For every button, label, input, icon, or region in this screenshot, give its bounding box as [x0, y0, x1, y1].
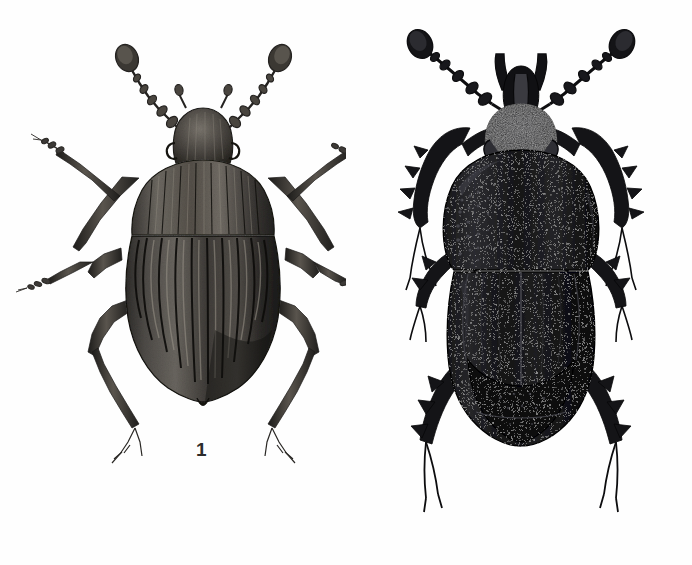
figure-1-svg: [0, 0, 346, 500]
figure-2-svg: [350, 0, 692, 565]
fig1-left-legs: [16, 134, 142, 463]
illustration-plate: 1: [0, 0, 692, 565]
fig1-elytra: [126, 236, 280, 406]
fig1-head: [167, 108, 239, 168]
fig2-elytra: [447, 272, 595, 446]
figure-2-beetle: 2: [350, 0, 692, 565]
figure-1-beetle: 1: [0, 0, 346, 500]
figure-1-number-label: 1: [196, 440, 207, 459]
fig2-pronotum: [443, 150, 598, 270]
fig1-pronotum: [132, 160, 274, 235]
